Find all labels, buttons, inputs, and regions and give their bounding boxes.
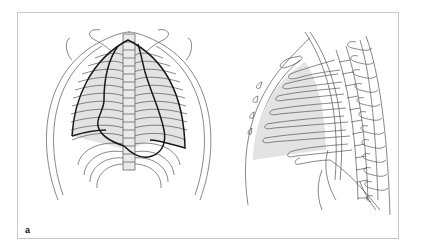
- frontal-view: [46, 30, 210, 200]
- chest-diagram: [0, 0, 439, 250]
- lateral-view: [245, 32, 390, 215]
- panel-label: a: [25, 225, 30, 235]
